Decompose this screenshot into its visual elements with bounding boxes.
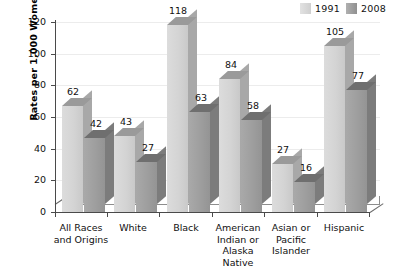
bar-front: [167, 25, 188, 212]
bar-2008-white: [136, 162, 157, 212]
bar-2008-all-races: [84, 138, 105, 212]
value-label-1991-hispanic: 105: [318, 26, 352, 37]
category-line: Islander: [260, 245, 322, 257]
y-tick-40: [51, 149, 55, 150]
y-label-20: 20: [16, 174, 46, 185]
x-tick-0: [55, 212, 56, 217]
gridline-120: [55, 22, 380, 23]
y-label-80: 80: [16, 79, 46, 90]
value-label-2008-hispanic: 77: [341, 70, 375, 81]
bar-front: [189, 112, 210, 212]
bar-2008-american-indian: [241, 120, 262, 212]
bar-1991-black: [167, 25, 188, 212]
bar-2008-asian-pacific: [294, 182, 315, 212]
bar-2008-black: [189, 112, 210, 212]
legend-item-2008: 2008: [346, 3, 386, 14]
value-label-1991-asian-pacific: 27: [266, 144, 300, 155]
y-tick-20: [51, 180, 55, 181]
y-label-60: 60: [16, 111, 46, 122]
category-line: Pacific: [260, 234, 322, 246]
bar-front: [136, 162, 157, 212]
bar-front: [84, 138, 105, 212]
value-label-2008-asian-pacific: 16: [289, 162, 323, 173]
legend-label-1991: 1991: [315, 3, 340, 14]
x-tick-6: [369, 212, 370, 217]
bar-front: [346, 90, 367, 212]
bar-front: [219, 79, 240, 212]
legend-swatch-2008: [346, 3, 357, 14]
category-line: and Origins: [50, 234, 112, 246]
bar-front: [241, 120, 262, 212]
category-line: Hispanic: [313, 222, 375, 234]
bar-chart: 1991 2008 Rates per 1,000 Women 120 100 …: [0, 0, 405, 271]
x-tick-2: [159, 212, 160, 217]
value-label-1991-white: 43: [109, 116, 143, 127]
bar-1991-american-indian: [219, 79, 240, 212]
category-line: Native: [207, 257, 269, 269]
y-label-0: 0: [16, 206, 46, 217]
value-label-2008-all-races: 42: [79, 118, 113, 129]
x-tick-3: [212, 212, 213, 217]
legend-item-1991: 1991: [300, 3, 340, 14]
category-label-hispanic: Hispanic: [313, 222, 375, 234]
bar-front: [294, 182, 315, 212]
value-label-2008-black: 63: [184, 92, 218, 103]
chart-legend: 1991 2008: [300, 3, 386, 14]
bar-side: [367, 74, 376, 204]
value-label-1991-american-indian: 84: [214, 59, 248, 70]
legend-swatch-1991: [300, 3, 311, 14]
value-label-2008-american-indian: 58: [236, 100, 270, 111]
y-label-120: 120: [16, 16, 46, 27]
bar-2008-hispanic: [346, 90, 367, 212]
bar-side: [210, 96, 219, 204]
x-tick-1: [107, 212, 108, 217]
y-tick-120: [51, 22, 55, 23]
value-label-2008-white: 27: [131, 142, 165, 153]
y-tick-80: [51, 85, 55, 86]
x-tick-5: [317, 212, 318, 217]
y-label-100: 100: [16, 48, 46, 59]
y-tick-100: [51, 54, 55, 55]
y-label-40: 40: [16, 143, 46, 154]
y-axis-line: [55, 20, 56, 214]
value-label-1991-black: 118: [161, 5, 195, 16]
y-tick-60: [51, 117, 55, 118]
legend-label-2008: 2008: [361, 3, 386, 14]
x-tick-4: [264, 212, 265, 217]
value-label-1991-all-races: 62: [56, 86, 90, 97]
